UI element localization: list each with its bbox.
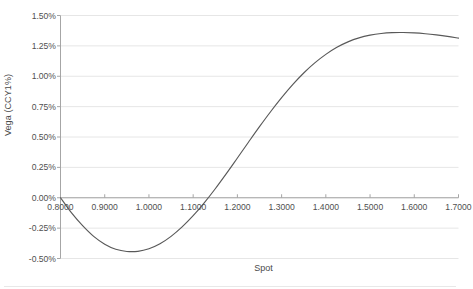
page-rule <box>4 286 456 287</box>
x-tick-label: 1.7000 <box>445 202 471 212</box>
gridlines <box>61 16 459 259</box>
x-tick-label: 0.9000 <box>92 202 118 212</box>
x-axis-tick-labels: 0.80000.90001.00001.10001.20001.30001.40… <box>0 202 473 218</box>
x-tick-label: 1.6000 <box>401 202 427 212</box>
x-tick-label: 1.2000 <box>224 202 250 212</box>
vega-curve <box>61 32 459 251</box>
plot-area <box>0 0 473 289</box>
x-tick-label: 1.5000 <box>357 202 383 212</box>
vega-spot-chart: Vega (CCY1%) 1.50%1.25%1.00%0.75%0.50%0.… <box>0 0 473 289</box>
x-tick-label: 1.0000 <box>136 202 162 212</box>
x-tick-label: 1.4000 <box>313 202 339 212</box>
x-tick-label: 0.8000 <box>47 202 73 212</box>
x-axis-title: Spot <box>60 263 467 273</box>
x-tick-label: 1.3000 <box>268 202 294 212</box>
x-tick-label: 1.1000 <box>180 202 206 212</box>
